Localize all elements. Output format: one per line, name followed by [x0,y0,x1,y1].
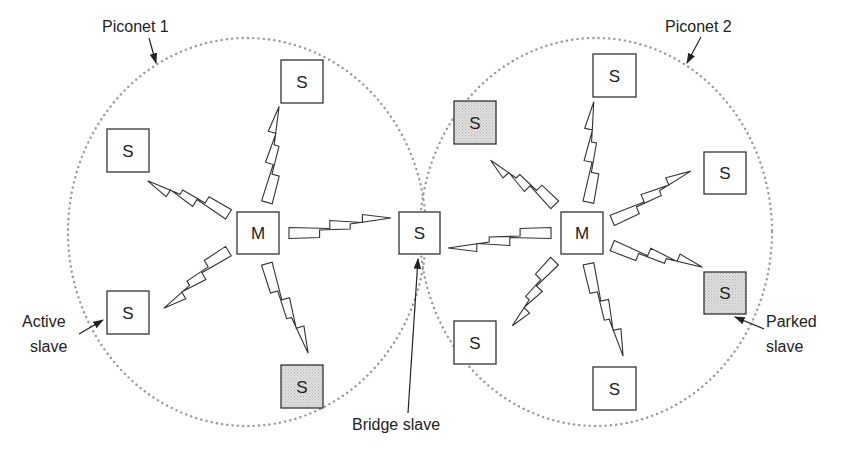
radio-link-bolt-m1-bridge [289,215,391,239]
node-label: S [609,380,620,399]
slave-node-p2-right: S [704,152,746,194]
slave-node-p1-top: S [281,60,323,103]
slave-node-p1-left: S [107,129,149,172]
radio-link-bolt-m2-p2-top [583,102,599,204]
slave-node-p1-bottom: S [281,365,323,408]
active-slave-label-line1: Active [22,313,66,330]
slave-node-p2-bottom: S [593,367,636,410]
scatternet-diagram: MSSSSSMSSSSSS Piconet 1 Piconet 2 Active… [0,0,843,453]
master-node-m1: M [237,212,279,254]
piconet-2-label: Piconet 2 [665,18,732,35]
node-label: M [251,224,265,243]
radio-link-bolt-m1-p1-bottom [262,262,309,353]
slave-node-p2-parked: S [704,272,746,314]
node-label: S [414,224,425,243]
parked-slave-label-line2: slave [766,338,803,355]
radio-link-bolt-m2-p2-right [610,171,691,225]
node-label: S [296,378,307,397]
radio-link-bolt-m2-p2-parked [610,241,702,268]
node-label: S [469,334,480,353]
piconet-1-arrow [149,38,156,63]
parked-slave-arrow [735,317,764,329]
piconet-1-label: Piconet 1 [102,18,169,35]
node-label: S [122,142,133,161]
master-node-m2: M [561,212,603,254]
piconet-2-arrow [687,37,701,63]
slave-node-p2-topleft: S [454,101,496,144]
node-label: S [122,304,133,323]
radio-link-bolt-m2-p2-topleft [491,160,559,208]
slave-node-p2-bottomleft: S [454,321,496,364]
radio-link-bolt-m2-bridge [448,228,551,252]
node-label: S [719,284,730,303]
slave-node-bridge: S [399,212,440,254]
slave-node-p1-active: S [107,291,149,334]
bridge-slave-label: Bridge slave [352,416,440,433]
slave-node-p2-top: S [593,54,636,97]
bridge-slave-arrow [408,259,418,413]
radio-link-bolt-m1-p1-top [262,107,280,204]
node-label: M [575,224,589,243]
active-slave-arrow [79,320,103,334]
device-nodes: MSSSSSMSSSSSS [107,54,746,410]
parked-slave-label-line1: Parked [766,313,817,330]
radio-link-bolt-m2-p2-bottom [583,263,623,356]
node-label: S [609,67,620,86]
node-label: S [719,164,730,183]
node-label: S [469,114,480,133]
radio-link-bolt-m1-p1-active [164,246,232,308]
radio-link-bolt-m2-p2-bottomleft [512,257,558,326]
radio-link-bolt-m1-p1-left [148,181,232,219]
active-slave-label-line2: slave [30,338,67,355]
node-label: S [296,73,307,92]
